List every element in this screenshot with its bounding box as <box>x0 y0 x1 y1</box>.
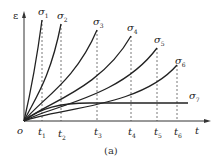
creep-curve-figure: ε o t σ1 σ2 σ3 σ4 σ5 σ6 σ7 t1 t2 t3 t4 t… <box>0 0 218 164</box>
x-axis-label: t <box>195 126 199 136</box>
tick-label-t5: t5 <box>154 127 162 139</box>
plot-area <box>0 0 218 164</box>
tick-label-t4: t4 <box>128 127 136 139</box>
y-axis-arrow-icon <box>22 11 26 18</box>
curve-label-sigma-3: σ3 <box>93 17 104 29</box>
tick-label-t3: t3 <box>94 127 102 139</box>
curve-label-sigma-4: σ4 <box>127 23 138 35</box>
curve-label-sigma-2: σ2 <box>57 11 68 23</box>
curve-label-sigma-5: σ5 <box>154 35 165 47</box>
curve-label-sigma-6: σ6 <box>175 56 186 68</box>
figure-caption: (a) <box>104 145 118 156</box>
tick-label-t1: t1 <box>38 127 46 139</box>
x-axis-arrow-icon <box>204 119 211 123</box>
tick-label-t2: t2 <box>58 129 66 141</box>
curve-label-sigma-1: σ1 <box>38 7 49 19</box>
curve-label-sigma-7: σ7 <box>189 91 200 103</box>
origin-label: o <box>17 126 23 136</box>
tick-label-t6: t6 <box>174 127 182 139</box>
y-axis-label: ε <box>13 11 18 21</box>
